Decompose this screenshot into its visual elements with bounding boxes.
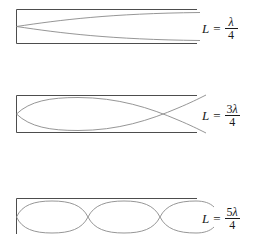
label-lhs: L bbox=[202, 108, 209, 124]
label-numerator: 3λ bbox=[225, 103, 240, 115]
tube-outline-fifth-harmonic bbox=[17, 199, 198, 235]
label-lhs: L bbox=[202, 211, 209, 227]
tube-outline-third-harmonic bbox=[17, 96, 198, 133]
label-fifth-harmonic: L = 5λ 4 bbox=[202, 206, 240, 231]
standing-wave-figure: L = λ 4 L = 3λ bbox=[0, 0, 265, 234]
label-third-harmonic: L = 3λ 4 bbox=[202, 103, 240, 128]
label-lhs: L bbox=[202, 21, 209, 37]
label-fraction: λ 4 bbox=[225, 16, 238, 41]
label-fraction: 3λ 4 bbox=[225, 103, 240, 128]
label-equals: = bbox=[212, 108, 221, 124]
wave-trough-curve bbox=[17, 27, 201, 41]
wave-trough-curve bbox=[17, 201, 215, 233]
label-denominator: 4 bbox=[227, 219, 237, 231]
tube-outline-fundamental bbox=[17, 10, 198, 44]
label-fraction: 5λ 4 bbox=[225, 206, 240, 231]
label-denominator: 4 bbox=[226, 29, 236, 41]
lambda-symbol: λ bbox=[233, 102, 238, 116]
label-fundamental: L = λ 4 bbox=[202, 16, 238, 41]
wave-envelope-fifth-harmonic bbox=[17, 201, 215, 233]
wave-crest-curve bbox=[17, 13, 201, 27]
label-equals: = bbox=[212, 21, 221, 37]
wave-envelope-fundamental bbox=[17, 13, 201, 41]
label-denominator: 4 bbox=[227, 116, 237, 128]
lambda-symbol: λ bbox=[228, 15, 233, 29]
label-numerator: λ bbox=[226, 16, 235, 28]
wave-crest-curve bbox=[17, 201, 215, 233]
label-numerator: 5λ bbox=[225, 206, 240, 218]
lambda-symbol: λ bbox=[233, 205, 238, 219]
label-equals: = bbox=[212, 211, 221, 227]
wave-envelope-third-harmonic bbox=[17, 95, 207, 133]
